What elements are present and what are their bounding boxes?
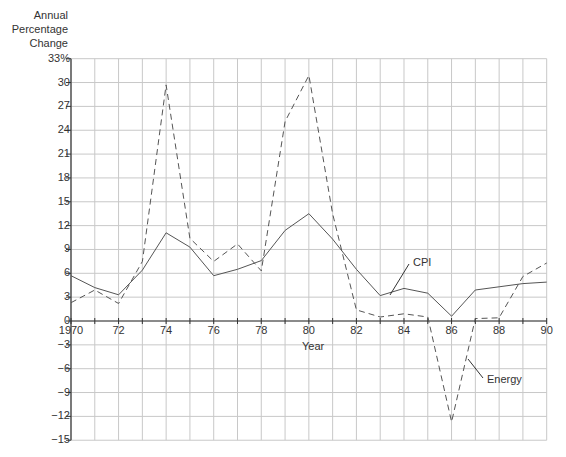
x-tick-label: 80	[303, 324, 315, 336]
x-axis-title: Year	[302, 340, 324, 352]
y-tick-label: 3	[64, 290, 70, 302]
y-tick-label: 9	[64, 242, 70, 254]
x-tick-label: 78	[255, 324, 267, 336]
y-tick-label: −3	[57, 338, 70, 350]
y-tick-label: −9	[57, 386, 70, 398]
y-tick-label: 24	[58, 123, 70, 135]
y-tick-label: 30	[58, 76, 70, 88]
y-tick-label: 21	[58, 147, 70, 159]
y-tick-label: 6	[64, 266, 70, 278]
y-tick-label: 33%	[48, 52, 70, 64]
x-tick-label: 84	[398, 324, 410, 336]
y-tick-label: 18	[58, 171, 70, 183]
y-tick-label: 12	[58, 219, 70, 231]
y-tick-label: 15	[58, 195, 70, 207]
cpi-leader-line	[390, 264, 409, 295]
line-chart	[0, 0, 566, 457]
energy-annotation: Energy	[487, 373, 522, 385]
x-tick-label: 82	[350, 324, 362, 336]
x-tick-label: 74	[160, 324, 172, 336]
x-tick-label: 76	[208, 324, 220, 336]
y-tick-label: −12	[51, 409, 70, 421]
x-tick-label: 1970	[59, 324, 83, 336]
x-tick-label: 90	[541, 324, 553, 336]
x-tick-label: 88	[493, 324, 505, 336]
y-tick-label: −6	[57, 362, 70, 374]
x-tick-label: 72	[112, 324, 124, 336]
y-tick-label: −15	[51, 433, 70, 445]
cpi-annotation: CPI	[413, 256, 431, 268]
y-tick-label: 27	[58, 99, 70, 111]
x-tick-label: 86	[445, 324, 457, 336]
